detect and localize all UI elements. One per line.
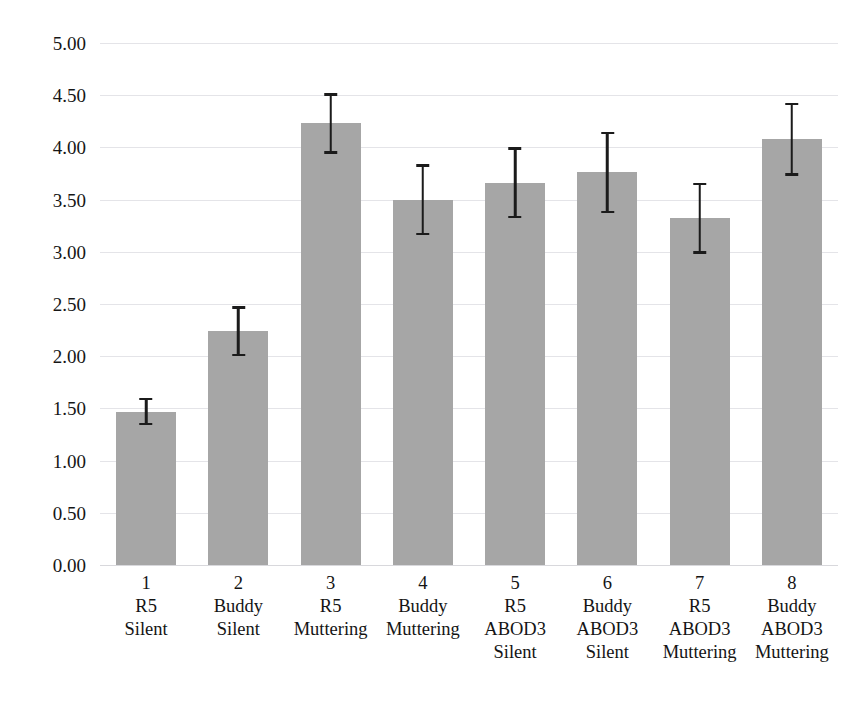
x-axis-label-line: 6: [561, 572, 653, 595]
x-axis-label-line: Muttering: [285, 618, 377, 641]
error-bar: [145, 398, 148, 425]
error-bar-cap-bottom: [140, 423, 153, 426]
x-axis-label-line: Silent: [192, 618, 284, 641]
x-axis-label-line: ABOD3: [561, 618, 653, 641]
x-axis-label-line: 8: [746, 572, 838, 595]
x-axis-label-line: 7: [654, 572, 746, 595]
bar-group[interactable]: [285, 43, 377, 565]
error-bar: [237, 306, 240, 356]
error-bar-cap-bottom: [509, 216, 522, 219]
y-axis-tick-label: 4.50: [0, 86, 86, 105]
axis-baseline: [100, 565, 838, 566]
bar-chart: 5.004.504.003.503.002.502.001.501.000.50…: [0, 0, 846, 701]
bar[interactable]: [116, 412, 176, 565]
y-axis-tick-label: 2.00: [0, 347, 86, 366]
bars-layer: [100, 43, 838, 565]
x-axis-tick-label: 4BuddyMuttering: [377, 572, 469, 641]
x-axis-label-line: 4: [377, 572, 469, 595]
error-bar-cap-bottom: [232, 354, 245, 357]
bar-group[interactable]: [561, 43, 653, 565]
x-axis-tick-label: 7R5ABOD3Muttering: [654, 572, 746, 664]
x-axis-label-line: 3: [285, 572, 377, 595]
x-axis-label-line: ABOD3: [654, 618, 746, 641]
error-bar-cap-bottom: [601, 211, 614, 214]
x-axis-label-line: Silent: [561, 641, 653, 664]
error-bar-cap-top: [140, 398, 153, 401]
x-axis-label-line: 2: [192, 572, 284, 595]
x-axis-label-line: Muttering: [746, 641, 838, 664]
bar-group[interactable]: [654, 43, 746, 565]
x-axis-label-line: Silent: [100, 618, 192, 641]
x-axis-label-line: 5: [469, 572, 561, 595]
x-axis-label-line: Buddy: [561, 595, 653, 618]
error-bar: [698, 183, 701, 254]
x-axis-tick-label: 8BuddyABOD3Muttering: [746, 572, 838, 664]
error-bar: [422, 164, 425, 235]
y-axis-tick-label: 3.50: [0, 191, 86, 210]
bar-group[interactable]: [192, 43, 284, 565]
x-axis-label-line: R5: [285, 595, 377, 618]
error-bar-cap-top: [416, 164, 429, 167]
y-axis-tick-label: 1.50: [0, 399, 86, 418]
bar-group[interactable]: [377, 43, 469, 565]
x-axis-label-line: Silent: [469, 641, 561, 664]
error-bar: [329, 93, 332, 154]
bar[interactable]: [762, 139, 822, 565]
x-axis-tick-label: 2BuddySilent: [192, 572, 284, 641]
x-axis-label-line: R5: [654, 595, 746, 618]
error-bar-cap-top: [785, 103, 798, 106]
error-bar-cap-top: [693, 183, 706, 186]
y-axis-tick-label: 4.00: [0, 138, 86, 157]
error-bar-cap-top: [509, 147, 522, 150]
bar[interactable]: [577, 172, 637, 565]
bar[interactable]: [485, 183, 545, 565]
x-axis-tick-label: 1R5Silent: [100, 572, 192, 641]
error-bar: [606, 132, 609, 213]
x-axis-label-line: Buddy: [192, 595, 284, 618]
error-bar-cap-top: [601, 132, 614, 135]
x-axis-label-line: Muttering: [654, 641, 746, 664]
error-bar-cap-bottom: [785, 173, 798, 176]
bar-group[interactable]: [469, 43, 561, 565]
error-bar-cap-bottom: [693, 251, 706, 254]
x-axis-tick-label: 6BuddyABOD3Silent: [561, 572, 653, 664]
y-axis-tick-label: 1.00: [0, 452, 86, 471]
error-bar: [514, 147, 517, 218]
x-axis-label-line: 1: [100, 572, 192, 595]
y-axis-tick-label: 5.00: [0, 34, 86, 53]
bar[interactable]: [393, 200, 453, 565]
y-axis-tick-label: 2.50: [0, 295, 86, 314]
bar[interactable]: [301, 123, 361, 565]
x-axis-label-line: R5: [100, 595, 192, 618]
bar[interactable]: [670, 218, 730, 565]
error-bar: [791, 103, 794, 176]
bar-group[interactable]: [100, 43, 192, 565]
bar-group[interactable]: [746, 43, 838, 565]
x-axis-tick-labels: 1R5Silent2BuddySilent3R5Muttering4BuddyM…: [100, 572, 838, 682]
y-axis-tick-label: 0.50: [0, 504, 86, 523]
x-axis-label-line: Buddy: [746, 595, 838, 618]
bar[interactable]: [208, 331, 268, 565]
error-bar-cap-bottom: [324, 151, 337, 154]
x-axis-label-line: Buddy: [377, 595, 469, 618]
x-axis-label-line: ABOD3: [746, 618, 838, 641]
y-axis-tick-label: 0.00: [0, 556, 86, 575]
x-axis-label-line: Muttering: [377, 618, 469, 641]
error-bar-cap-top: [232, 306, 245, 309]
x-axis-tick-label: 5R5ABOD3Silent: [469, 572, 561, 664]
x-axis-label-line: R5: [469, 595, 561, 618]
y-axis-tick-label: 3.00: [0, 243, 86, 262]
error-bar-cap-bottom: [416, 233, 429, 236]
x-axis-tick-label: 3R5Muttering: [285, 572, 377, 641]
error-bar-cap-top: [324, 93, 337, 96]
x-axis-label-line: ABOD3: [469, 618, 561, 641]
